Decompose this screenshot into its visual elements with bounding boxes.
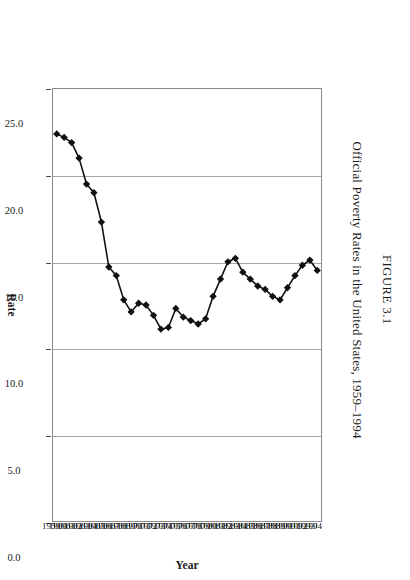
value-axis-tick-label: 0.0 <box>0 552 44 563</box>
series-markers <box>54 131 320 332</box>
data-point-marker <box>99 219 105 225</box>
data-point-marker <box>158 326 164 332</box>
data-point-marker <box>76 155 82 161</box>
data-point-marker <box>225 259 231 265</box>
value-axis-tick <box>46 176 51 177</box>
series-line-chart <box>53 89 321 521</box>
plot-area <box>52 88 322 522</box>
category-axis-title-text: Year <box>176 558 199 570</box>
value-axis-tick <box>46 263 51 264</box>
value-axis-title: Rate <box>6 88 18 522</box>
data-point-marker <box>210 293 216 299</box>
value-axis-tick <box>46 436 51 437</box>
data-point-marker <box>166 325 172 331</box>
figure-rotator: FIGURE 3.1 Official Poverty Rates in the… <box>0 0 410 580</box>
data-point-marker <box>54 131 60 137</box>
figure-caption: Official Poverty Rates in the United Sta… <box>349 0 365 580</box>
figure-canvas: FIGURE 3.1 Official Poverty Rates in the… <box>0 0 410 580</box>
category-axis-tick-label: 1994 <box>304 521 322 531</box>
figure-title-block: FIGURE 3.1 Official Poverty Rates in the… <box>349 0 394 580</box>
data-point-marker <box>233 255 239 261</box>
value-axis-tick <box>46 349 51 350</box>
figure-number: FIGURE 3.1 <box>379 0 394 580</box>
data-point-marker <box>218 276 224 282</box>
category-axis-title: Year <box>52 556 322 572</box>
data-point-marker <box>188 318 194 324</box>
value-axis-tick <box>46 89 51 90</box>
